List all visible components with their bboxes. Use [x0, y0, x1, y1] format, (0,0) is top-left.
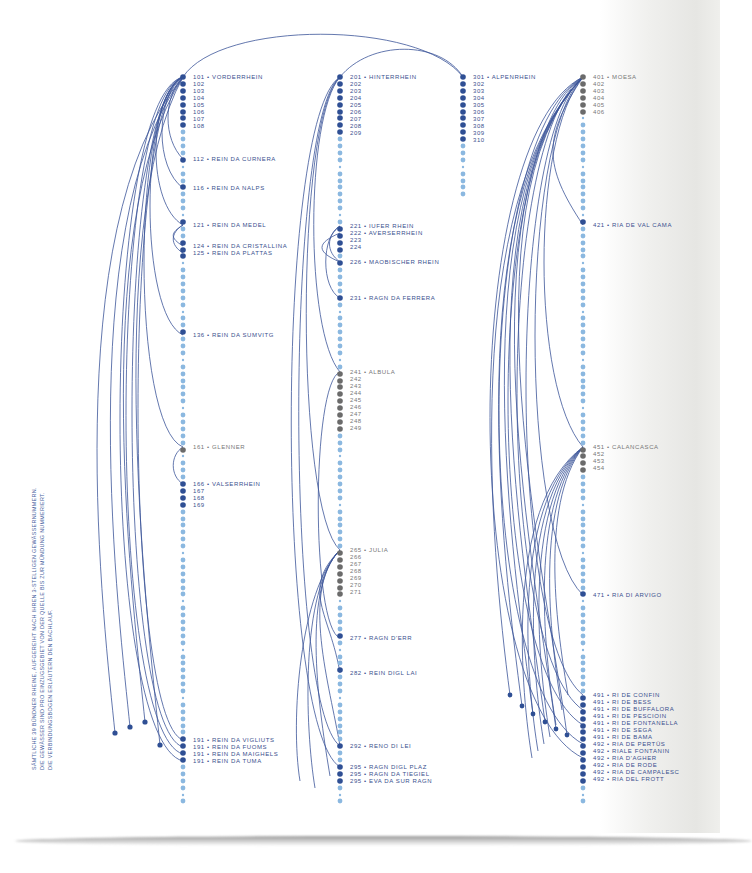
- river-node-dot: [180, 240, 186, 246]
- river-label: 102: [193, 81, 205, 88]
- river-node-dot: [180, 219, 186, 225]
- segment-dot: [582, 214, 584, 216]
- river-label: 302: [473, 81, 485, 88]
- segment-dot: [181, 420, 186, 425]
- segment-dot: [181, 206, 186, 211]
- segment-dot: [338, 316, 343, 321]
- river-node-dot: [180, 329, 186, 335]
- river-node-dot: [337, 371, 343, 377]
- segment-dot: [181, 475, 186, 480]
- segment-dot: [182, 649, 184, 651]
- river-label: 242: [350, 376, 362, 383]
- segment-dot: [181, 461, 186, 466]
- segment-dot: [461, 158, 466, 163]
- segment-dot: [181, 765, 186, 770]
- river-node-dot: [580, 95, 586, 101]
- segment-dot: [582, 311, 584, 313]
- segment-dot: [338, 351, 343, 356]
- river-label: 295 • RAGN DIGL PLAZ: [350, 764, 427, 771]
- river-node-dot: [580, 709, 586, 715]
- segment-dot: [338, 344, 343, 349]
- river-label: 249: [350, 425, 362, 432]
- river-node-dot: [580, 757, 586, 763]
- segment-dot: [338, 717, 343, 722]
- segment-dot: [581, 682, 586, 687]
- caption-line-2: DIE GEWÄSSER SIND PRO EINZUGSGEBIET VON …: [38, 487, 46, 770]
- segment-dot: [338, 434, 343, 439]
- segment-dot: [581, 399, 586, 404]
- segment-dot: [581, 330, 586, 335]
- segment-dot: [338, 151, 343, 156]
- river-label: 402: [593, 81, 605, 88]
- segment-dot: [181, 372, 186, 377]
- river-label: 306: [473, 109, 485, 116]
- segment-dot: [181, 510, 186, 515]
- segment-dot: [338, 724, 343, 729]
- segment-dot: [181, 572, 186, 577]
- segment-dot: [181, 586, 186, 591]
- segment-dot: [581, 199, 586, 204]
- segment-dot: [338, 482, 343, 487]
- segment-dot: [338, 641, 343, 646]
- segment-dot: [338, 185, 343, 190]
- segment-dot: [461, 151, 466, 156]
- segment-dot: [581, 351, 586, 356]
- segment-dot: [338, 496, 343, 501]
- river-label: 208: [350, 123, 362, 130]
- river-label: 224: [350, 244, 362, 251]
- segment-dot: [181, 724, 186, 729]
- segment-dot: [181, 296, 186, 301]
- river-node-dot: [580, 778, 586, 784]
- segment-dot: [338, 475, 343, 480]
- connection-arc: [544, 77, 583, 447]
- river-node-dot: [180, 488, 186, 494]
- river-label: 226 • MAOBISCHER RHEIN: [350, 259, 439, 266]
- segment-dot: [581, 365, 586, 370]
- segment-dot: [582, 794, 584, 796]
- river-label: 492 • RIA D'AGHER: [593, 755, 657, 762]
- river-label: 202: [350, 81, 362, 88]
- river-node-dot: [337, 74, 343, 80]
- segment-dot: [581, 634, 586, 639]
- segment-dot: [338, 303, 343, 308]
- segment-dot: [339, 214, 341, 216]
- segment-dot: [181, 427, 186, 432]
- river-label: 421 • RIA DE VAL CAMA: [593, 222, 672, 229]
- connection-arc: [97, 77, 183, 733]
- segment-dot: [181, 399, 186, 404]
- segment-dot: [581, 172, 586, 177]
- river-label: 241 • ALBULA: [350, 369, 395, 376]
- river-node-dot: [460, 109, 466, 115]
- caption-vertical: SÄMTLICHE 39 BÜNDNER RHEINE, AUFGEREIHT …: [30, 487, 55, 770]
- river-label: 206: [350, 109, 362, 116]
- segment-dot: [581, 517, 586, 522]
- river-end-dot: [531, 712, 536, 717]
- segment-dot: [338, 158, 343, 163]
- segment-dot: [338, 441, 343, 446]
- river-label: 105: [193, 102, 205, 109]
- river-node-dot: [337, 412, 343, 418]
- river-node-dot: [180, 502, 186, 508]
- segment-dot: [338, 682, 343, 687]
- segment-dot: [181, 192, 186, 197]
- segment-dot: [582, 649, 584, 651]
- river-label: 491 • RI DE BAMA: [593, 734, 653, 741]
- river-node-dot: [180, 757, 186, 763]
- segment-dot: [181, 172, 186, 177]
- river-node-dot: [180, 447, 186, 453]
- segment-dot: [581, 613, 586, 618]
- river-node-dot: [180, 157, 186, 163]
- segment-dot: [461, 144, 466, 149]
- river-label: 492 • RIA DE PERTÜS: [593, 741, 665, 748]
- segment-dot: [581, 344, 586, 349]
- river-label: 222 • AVERSERRHEIN: [350, 230, 423, 237]
- river-node-dot: [337, 398, 343, 404]
- river-label: 295 • EVA DA SUR RAGN: [350, 778, 432, 785]
- segment-dot: [581, 586, 586, 591]
- river-end-dot: [554, 727, 559, 732]
- river-label: 125 • REIN DA PLATTAS: [193, 250, 273, 257]
- segment-dot: [181, 682, 186, 687]
- connection-arc: [322, 233, 340, 262]
- segment-dot: [182, 794, 184, 796]
- segment-dot: [181, 786, 186, 791]
